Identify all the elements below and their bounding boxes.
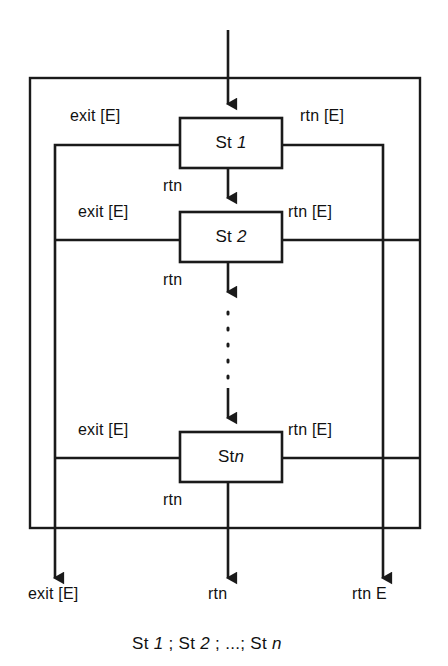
caption-ellipsis: ...;: [225, 634, 245, 653]
output-label-exit: exit [E]: [28, 586, 79, 602]
state-label-st2: St 2: [180, 228, 282, 245]
state-label-stn-index: n: [234, 447, 244, 466]
caption-st2-prefix: St: [179, 634, 196, 653]
state-label-st2-index: 2: [237, 227, 247, 246]
edge-label-rtn-st2: rtn: [163, 272, 182, 288]
caption-stn-prefix: St: [250, 634, 267, 653]
state-label-st2-prefix: St: [215, 227, 231, 246]
edge-label-rtn-e-st2: rtn [E]: [288, 204, 332, 220]
edge-label-exit-st2: exit [E]: [78, 204, 129, 220]
edge-label-exit-stn: exit [E]: [78, 422, 129, 438]
edge-label-rtn-stn: rtn: [163, 492, 182, 508]
figure-caption: St 1 ; St 2 ; ...; St n: [132, 634, 282, 654]
state-label-st1: St 1: [180, 134, 282, 151]
caption-stn-index: n: [272, 634, 282, 653]
statechart-diagram: St 1 St 2 Stn exit [E] exit [E] exit [E]…: [0, 0, 448, 666]
state-label-stn: Stn: [180, 448, 282, 465]
edge-label-rtn-e-stn: rtn [E]: [288, 422, 332, 438]
output-label-rtn: rtn: [208, 586, 227, 602]
output-label-rtn-e: rtn E: [352, 586, 387, 602]
caption-st1-prefix: St: [132, 634, 149, 653]
diagram-canvas: [0, 0, 448, 666]
state-label-stn-prefix: St: [218, 447, 234, 466]
edge-label-exit-st1: exit [E]: [70, 108, 121, 124]
edge-label-rtn-st1: rtn: [163, 178, 182, 194]
edge-label-rtn-e-st1: rtn [E]: [300, 108, 344, 124]
state-label-st1-prefix: St: [215, 133, 231, 152]
caption-st1-index: 1: [154, 634, 164, 653]
state-label-st1-index: 1: [237, 133, 247, 152]
caption-st2-index: 2: [200, 634, 210, 653]
